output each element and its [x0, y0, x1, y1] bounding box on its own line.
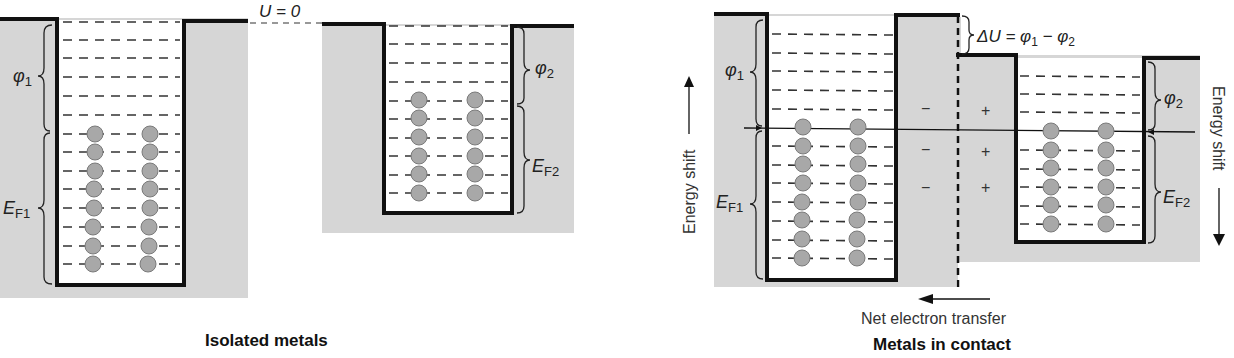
svg-text:−: − — [921, 179, 930, 196]
arrow-up-icon — [684, 76, 694, 87]
delta-u-label: ΔU = φ1 − φ2 — [976, 27, 1075, 49]
svg-text:Energy shift: Energy shift — [1210, 86, 1227, 171]
isolated-metals-caption: Isolated metals — [205, 331, 328, 350]
svg-text:−: − — [921, 100, 930, 117]
arrow-down-icon — [1213, 234, 1225, 246]
transfer-arrow-left-icon — [918, 294, 933, 304]
energy-diagram: U = 0 — [0, 0, 1234, 358]
vacuum-level-label: U = 0 — [259, 2, 301, 21]
contact-metal1-well — [767, 16, 897, 280]
metals-in-contact-caption: Metals in contact — [873, 335, 1011, 354]
transfer-label: Net electron transfer — [861, 310, 1007, 327]
energy-shift-left: Energy shift — [681, 76, 698, 234]
svg-text:+: + — [981, 102, 990, 119]
svg-text:Energy shift: Energy shift — [681, 149, 698, 234]
contact-metal2-well — [1016, 58, 1143, 242]
svg-text:+: + — [981, 179, 990, 196]
metals-in-contact-panel: φ1 EF1 − − − + + + ΔU = φ1 − φ2 — [681, 14, 1227, 354]
negative-charges: − − − — [921, 100, 930, 196]
energy-shift-right: Energy shift — [1210, 86, 1227, 246]
isolated-metals-panel: U = 0 — [0, 2, 574, 350]
delta-u-brace-icon — [962, 16, 974, 54]
positive-charges: + + + — [981, 102, 990, 196]
svg-text:−: − — [921, 141, 930, 158]
svg-text:+: + — [981, 143, 990, 160]
